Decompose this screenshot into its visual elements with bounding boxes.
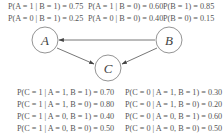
node-a: A xyxy=(32,27,58,53)
node-a-label: A xyxy=(40,33,49,48)
node-c: C xyxy=(95,55,121,81)
node-b: B xyxy=(156,27,182,53)
prob-c0-a1-b0: P(C = 0 | A = 1, B = 0) = 0.20 xyxy=(125,101,222,109)
prob-c1-a1-b1: P(C = 1 | A = 1, B = 1) = 0.70 xyxy=(17,89,114,97)
prob-c1-a0-b1: P(C = 1 | A = 0, B = 1) = 0.40 xyxy=(17,113,114,121)
edge-a-to-c xyxy=(57,48,94,64)
prob-c1-a0-b0: P(C = 1 | A = 0, B = 0) = 0.50 xyxy=(17,125,114,133)
prob-c0-a1-b1: P(C = 0 | A = 1, B = 1) = 0.30 xyxy=(125,89,222,97)
node-b-label: B xyxy=(165,33,173,48)
edge-b-to-c xyxy=(122,48,157,64)
prob-c1-a1-b0: P(C = 1 | A = 1, B = 0) = 0.80 xyxy=(17,101,114,109)
bayesian-network-diagram: P(A = 1 | B = 1) = 0.75 P(A = 1 | B = 0)… xyxy=(0,0,223,134)
prob-c0-a0-b0: P(C = 0 | A = 0, B = 0) = 0.50 xyxy=(125,125,222,133)
node-c-label: C xyxy=(104,61,113,76)
prob-c0-a0-b1: P(C = 0 | A = 0, B = 1) = 0.60 xyxy=(125,113,222,121)
